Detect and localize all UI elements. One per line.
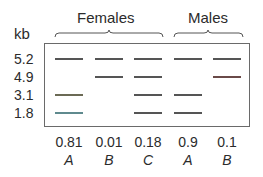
band-3.1 (174, 94, 202, 96)
lane-genotype: B (207, 152, 247, 168)
size-label: 4.9 (14, 69, 38, 85)
band-1.8 (174, 112, 202, 114)
males-brace-icon (173, 30, 244, 38)
lane-genotype: A (168, 152, 208, 168)
band-1.8 (134, 112, 162, 114)
band-4.9 (134, 76, 162, 78)
lane-frequency: 0.1 (207, 134, 247, 150)
unit-label: kb (14, 25, 30, 42)
group-label-females: Females (77, 9, 135, 26)
lane-frequency: 0.9 (168, 134, 208, 150)
band-3.1 (134, 94, 162, 96)
lane-frequency: 0.81 (49, 134, 89, 150)
lane-frequency: 0.18 (128, 134, 168, 150)
size-label: 1.8 (14, 105, 38, 121)
gel-box (44, 43, 250, 127)
size-label: 3.1 (14, 87, 38, 103)
band-5.2 (134, 58, 162, 60)
band-4.9 (95, 76, 123, 78)
size-label: 5.2 (14, 51, 38, 67)
band-4.9 (213, 76, 241, 78)
band-5.2 (174, 58, 202, 60)
band-5.2 (213, 58, 241, 60)
lane-genotype: C (128, 152, 168, 168)
lane-genotype: B (89, 152, 129, 168)
lane-genotype: A (49, 152, 89, 168)
females-brace-icon (54, 30, 164, 38)
band-5.2 (95, 58, 123, 60)
band-5.2 (55, 58, 83, 60)
lane-frequency: 0.01 (89, 134, 129, 150)
group-label-males: Males (188, 9, 228, 26)
band-1.8 (55, 112, 83, 114)
band-3.1 (55, 94, 83, 96)
